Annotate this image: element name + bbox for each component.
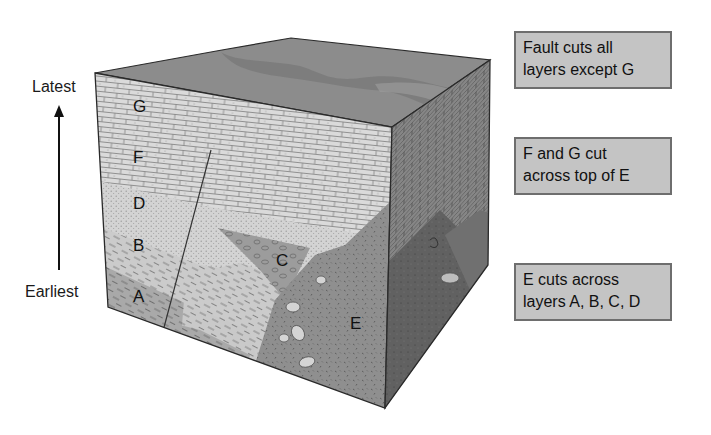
note-f-g-line2: across top of E — [523, 165, 670, 187]
layer-label-c: C — [276, 251, 288, 270]
time-axis-latest-label: Latest — [32, 78, 76, 96]
note-fault-line2: layers except G — [523, 59, 670, 81]
layer-label-b: B — [133, 236, 144, 255]
note-fault-line1: Fault cuts all — [523, 37, 670, 59]
note-e-cuts-layers: E cuts across layers A, B, C, D — [514, 263, 672, 321]
time-axis-earliest-label: Earliest — [25, 283, 78, 301]
layer-label-g: G — [133, 97, 146, 116]
layer-label-e: E — [350, 314, 361, 333]
note-f-g-cut-e: F and G cut across top of E — [514, 137, 672, 195]
time-arrow-icon — [54, 105, 64, 270]
layer-label-d: D — [133, 194, 145, 213]
note-f-g-line1: F and G cut — [523, 143, 670, 165]
layer-label-f: F — [133, 148, 143, 167]
note-e-line1: E cuts across — [523, 269, 670, 291]
note-e-line2: layers A, B, C, D — [523, 291, 670, 313]
layer-label-a: A — [133, 287, 145, 306]
note-fault: Fault cuts all layers except G — [514, 31, 672, 89]
